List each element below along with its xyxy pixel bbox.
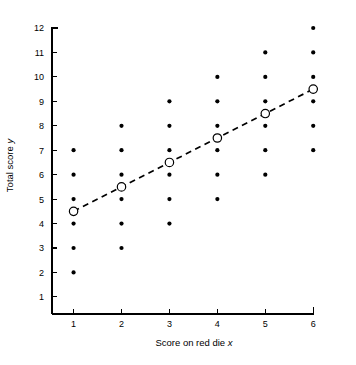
- x-axis-line: [52, 307, 313, 314]
- y-axis-title: Total score y: [4, 138, 15, 193]
- mean-point-marker[interactable]: [213, 134, 221, 142]
- x-tick-label: 1: [71, 319, 76, 329]
- data-point-dot[interactable]: [71, 148, 75, 152]
- data-point-dot[interactable]: [311, 148, 315, 152]
- data-point-dot[interactable]: [215, 99, 219, 103]
- data-point-dot[interactable]: [119, 246, 123, 250]
- data-point-dot[interactable]: [311, 99, 315, 103]
- data-point-dot[interactable]: [311, 50, 315, 54]
- data-point-dot[interactable]: [167, 221, 171, 225]
- x-tick-label: 4: [215, 319, 220, 329]
- data-point-dot[interactable]: [71, 197, 75, 201]
- y-tick-label: 11: [35, 48, 44, 58]
- data-point-dot[interactable]: [215, 75, 219, 79]
- y-tick-label: 4: [39, 219, 44, 229]
- y-tick-label: 1: [39, 292, 44, 302]
- mean-point-marker[interactable]: [69, 207, 77, 215]
- data-point-dot[interactable]: [167, 148, 171, 152]
- data-point-dot[interactable]: [263, 124, 267, 128]
- x-axis-title: Score on red die x: [155, 337, 233, 348]
- data-point-dot[interactable]: [263, 148, 267, 152]
- scatter-plot-figure: 123456789101112123456Score on red die xT…: [0, 0, 356, 365]
- y-tick-label: 12: [34, 23, 44, 33]
- data-point-dot[interactable]: [263, 173, 267, 177]
- data-point-dot[interactable]: [215, 173, 219, 177]
- data-point-dot[interactable]: [215, 197, 219, 201]
- y-tick-label: 7: [39, 146, 44, 156]
- data-point-dot[interactable]: [167, 99, 171, 103]
- data-point-dot[interactable]: [215, 148, 219, 152]
- mean-point-marker[interactable]: [261, 109, 269, 117]
- data-point-dot[interactable]: [263, 75, 267, 79]
- y-tick-label: 9: [39, 97, 44, 107]
- data-point-dot[interactable]: [119, 173, 123, 177]
- y-tick-label: 6: [39, 170, 44, 180]
- data-point-dot[interactable]: [311, 26, 315, 30]
- data-point-dot[interactable]: [119, 221, 123, 225]
- data-point-dot[interactable]: [167, 197, 171, 201]
- data-point-dot[interactable]: [311, 75, 315, 79]
- mean-point-marker[interactable]: [165, 158, 173, 166]
- mean-point-marker[interactable]: [309, 85, 317, 93]
- x-tick-label: 2: [119, 319, 124, 329]
- data-point-dot[interactable]: [119, 148, 123, 152]
- y-tick-label: 5: [39, 195, 44, 205]
- data-point-dot[interactable]: [215, 124, 219, 128]
- x-tick-label: 5: [263, 319, 268, 329]
- x-tick-label: 6: [311, 319, 316, 329]
- y-axis-line: [52, 28, 58, 314]
- data-point-dot[interactable]: [263, 99, 267, 103]
- data-point-dot[interactable]: [71, 246, 75, 250]
- y-tick-label: 10: [34, 72, 44, 82]
- mean-point-marker[interactable]: [117, 183, 125, 191]
- plot-canvas: 123456789101112123456Score on red die xT…: [0, 0, 356, 365]
- data-point-dot[interactable]: [71, 270, 75, 274]
- data-point-dot[interactable]: [119, 197, 123, 201]
- data-point-dot[interactable]: [311, 124, 315, 128]
- data-point-dot[interactable]: [119, 124, 123, 128]
- data-point-dot[interactable]: [71, 173, 75, 177]
- y-tick-label: 3: [39, 243, 44, 253]
- data-point-dot[interactable]: [167, 173, 171, 177]
- data-point-dot[interactable]: [263, 50, 267, 54]
- x-tick-label: 3: [167, 319, 172, 329]
- data-point-dot[interactable]: [167, 124, 171, 128]
- mean-trend-line: [74, 89, 314, 211]
- data-point-dot[interactable]: [71, 221, 75, 225]
- y-tick-label: 2: [39, 268, 44, 278]
- y-tick-label: 8: [39, 121, 44, 131]
